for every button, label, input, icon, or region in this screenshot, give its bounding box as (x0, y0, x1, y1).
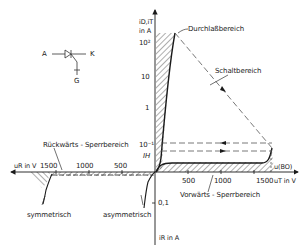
direction-arrows (220, 86, 226, 153)
switching-region-label: Schaltbereich (215, 67, 261, 75)
leader-lines (42, 29, 228, 205)
y-axis-unit-top: in A (139, 27, 151, 35)
switching-lines (161, 33, 272, 172)
holding-current-label: IH (143, 152, 150, 160)
y-tick-1: 1 (145, 104, 149, 112)
y-tick-100: 10² (139, 39, 150, 47)
x-tick-500: 500 (182, 177, 195, 185)
forward-conduction-region-label: Durchlaßbereich (188, 25, 244, 33)
x-axis-label-left: uR in V (14, 162, 36, 170)
x-tick-neg-500: 500 (114, 162, 127, 170)
asymmetric-label: asymmetrisch (103, 211, 151, 219)
y-axis-label-bottom: iR in A (159, 234, 179, 242)
y-tick-10: 10 (141, 73, 150, 81)
axes (11, 10, 298, 245)
x-axis-label-right: uT in V (274, 177, 296, 185)
gate-label: G (74, 77, 79, 85)
symmetric-label: symmetrisch (27, 211, 71, 219)
x-tick-neg-1500: 1500 (40, 162, 57, 170)
x-tick-1000: 1000 (214, 177, 231, 185)
x-tick-neg-1000: 1000 (76, 162, 93, 170)
anode-label: A (42, 50, 47, 58)
y-tick-neg-0.1: 0,1 (158, 199, 169, 207)
y-axis-label-top: iD,iT (139, 18, 153, 26)
x-tick-1500: 1500 (256, 177, 273, 185)
reverse-blocking-region-label: Rückwärts - Sperrbereich (43, 141, 129, 149)
forward-blocking-region-label: Vorwärts - Sperrbereich (180, 191, 260, 199)
breakover-voltage-label: u(BO) (274, 163, 292, 171)
thyristor-symbol (52, 50, 86, 75)
cathode-label: K (90, 50, 95, 58)
y-tick-0.1: 10⁻¹ (139, 141, 154, 149)
hatched-regions (30, 33, 274, 188)
